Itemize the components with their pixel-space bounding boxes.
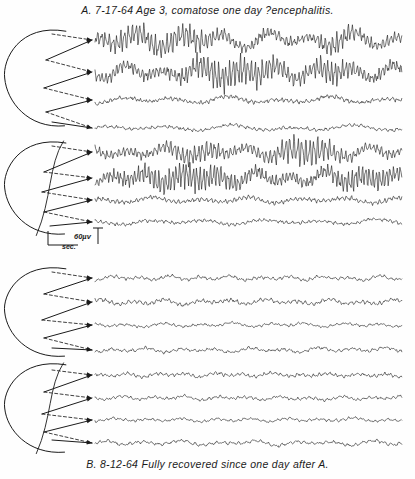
electrode-arrowhead-3 <box>86 72 92 76</box>
electrode-arrow-solid-1 <box>44 375 92 392</box>
eeg-trace-A1-ch2 <box>95 52 402 94</box>
electrode-arrow-solid-3 <box>44 72 92 88</box>
head-outline <box>4 30 65 126</box>
eeg-trace-B1-ch2 <box>95 298 402 307</box>
electrode-arrow-dashed-0 <box>52 272 92 278</box>
electrode-arrow-solid-1 <box>44 278 92 294</box>
eeg-block-A-lower <box>4 134 401 235</box>
eeg-block-B-upper <box>4 268 401 357</box>
eeg-trace-A2-ch3 <box>95 195 402 206</box>
electrode-arrow-dashed-6 <box>44 212 92 222</box>
eeg-trace-A1-ch4 <box>95 123 402 132</box>
electrode-arrow-solid-7 <box>52 122 92 128</box>
electrode-arrow-dashed-4 <box>42 320 92 325</box>
calibration-amplitude-label: 60µv <box>74 232 91 241</box>
electrode-arrowhead-5 <box>86 324 92 328</box>
eeg-trace-B1-ch4 <box>95 346 402 354</box>
eeg-trace-B1-ch3 <box>95 321 402 328</box>
eeg-trace-B2-ch4 <box>95 439 402 447</box>
electrode-arrow-solid-1 <box>46 40 92 60</box>
electrode-arrow-solid-3 <box>42 302 92 320</box>
eeg-trace-B2-ch2 <box>95 394 402 402</box>
electrode-arrow-solid-5 <box>44 325 92 338</box>
electrode-arrow-solid-5 <box>44 420 92 432</box>
electrode-arrow-solid-7 <box>50 222 92 226</box>
electrode-arrow-dashed-0 <box>52 34 92 40</box>
electrode-arrow-dashed-6 <box>44 338 92 350</box>
electrode-arrowhead-5 <box>86 99 92 103</box>
electrode-arrow-dashed-2 <box>46 60 92 72</box>
eeg-trace-A2-ch4 <box>95 218 402 226</box>
eeg-trace-B2-ch1 <box>95 371 402 378</box>
electrode-arrow-dashed-4 <box>42 192 92 200</box>
electrode-arrowhead-1 <box>86 278 92 282</box>
eeg-trace-A1-ch3 <box>95 95 402 106</box>
eeg-trace-B2-ch3 <box>95 417 402 423</box>
eeg-block-B-lower <box>4 363 401 454</box>
electrode-arrowhead-3 <box>86 398 92 402</box>
eeg-trace-A2-ch1 <box>95 134 402 167</box>
calibration-time-label: sec. <box>62 243 76 250</box>
electrode-arrow-solid-5 <box>44 200 92 212</box>
electrode-arrowhead-1 <box>86 152 92 156</box>
head-outline <box>4 268 65 357</box>
electrode-arrow-dashed-4 <box>42 414 92 420</box>
electrode-arrowhead-5 <box>86 199 92 203</box>
electrode-arrowhead-5 <box>86 419 92 423</box>
eeg-trace-B1-ch1 <box>95 274 402 282</box>
eeg-block-A-upper <box>4 23 401 132</box>
eeg-trace-canvas <box>0 0 415 479</box>
electrode-arrow-dashed-4 <box>44 88 92 100</box>
eeg-figure: A. 7-17-64 Age 3, comatose one day ?ence… <box>0 0 415 479</box>
electrode-arrow-solid-1 <box>44 152 92 172</box>
head-midline <box>36 141 63 236</box>
electrode-arrowhead-3 <box>86 177 92 181</box>
electrode-arrowhead-3 <box>86 302 92 306</box>
eeg-trace-A2-ch2 <box>95 162 402 194</box>
electrode-arrowhead-1 <box>86 40 92 44</box>
eeg-trace-A1-ch1 <box>95 23 402 58</box>
electrode-arrow-solid-5 <box>46 100 92 112</box>
electrode-arrowhead-1 <box>86 375 92 379</box>
electrode-arrow-dashed-2 <box>44 294 92 302</box>
caption-record-b: B. 8-12-64 Fully recovered since one day… <box>0 458 415 470</box>
